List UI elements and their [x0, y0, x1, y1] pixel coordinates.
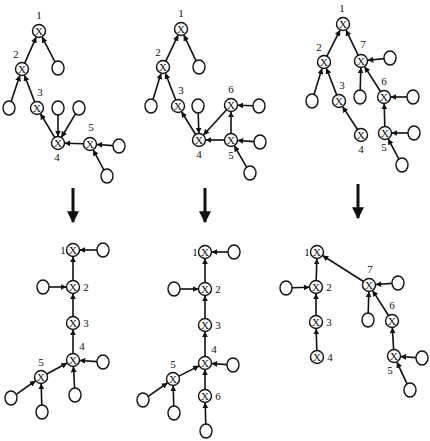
edge-arrow — [205, 403, 206, 425]
node-number-label: 3 — [178, 84, 184, 96]
node-number-label: 3 — [37, 86, 43, 98]
nodes-layer: X1X2X3X4X5X1X2X3X4X5X6X1X2X3X4X7X6X5X1X2… — [3, 2, 428, 438]
x-node-glyph: X — [313, 246, 321, 258]
tree-transformation-diagram: X1X2X3X4X5X1X2X3X4X5X6X1X2X3X4X7X6X5X1X2… — [0, 0, 430, 441]
edge-arrow — [179, 366, 199, 376]
x-node-1: X1 — [33, 9, 46, 38]
x-node-4: X4 — [52, 137, 65, 164]
edge-arrow — [47, 363, 67, 374]
x-node-2: X2 — [199, 283, 221, 296]
edge-arrow — [212, 364, 227, 365]
edge-arrow — [93, 150, 104, 171]
x-node-glyph: X — [357, 55, 365, 67]
edge-arrow — [316, 259, 317, 281]
node-number-label: 1 — [339, 2, 345, 14]
edge-arrow — [166, 74, 176, 100]
x-node-1: X1 — [192, 246, 211, 259]
x-node-1: X1 — [60, 244, 79, 257]
x-node-glyph: X — [169, 373, 177, 385]
leaf-node — [362, 313, 374, 327]
x-node-7: X7 — [363, 263, 376, 292]
x-node-5: X5 — [84, 121, 97, 151]
x-node-4: X4 — [311, 351, 334, 364]
node-number-label: 5 — [170, 358, 176, 370]
node-number-label: 2 — [215, 283, 221, 295]
x-node-3: X3 — [67, 317, 90, 330]
x-node-glyph: X — [69, 354, 77, 366]
x-node-glyph: X — [357, 129, 365, 141]
edge-arrow — [238, 141, 254, 142]
edge-arrow — [235, 146, 248, 168]
leaf-node — [168, 282, 180, 296]
node-number-label: 3 — [83, 317, 89, 329]
leaf-node — [69, 388, 81, 402]
edge-arrow — [323, 256, 364, 282]
edge-arrow — [368, 59, 384, 61]
x-node-glyph: X — [86, 138, 94, 150]
edge-arrow — [346, 30, 358, 55]
edge-arrow — [392, 328, 393, 350]
node-number-label: 1 — [60, 244, 66, 256]
x-node-2: X2 — [155, 46, 169, 74]
x-node-3: X3 — [199, 319, 222, 332]
leaf-node — [280, 281, 292, 295]
x-node-glyph: X — [69, 244, 77, 256]
leaf-node — [52, 61, 64, 75]
x-node-glyph: X — [380, 91, 388, 103]
tree-panel-bottom-2: X1X2X3X4X5X6 — [137, 245, 240, 438]
edge-arrow — [41, 114, 55, 137]
node-number-label: 4 — [54, 151, 60, 163]
x-node-glyph: X — [313, 351, 321, 363]
edge-arrow — [384, 104, 385, 127]
node-number-label: 2 — [13, 48, 19, 60]
leaf-node — [113, 139, 125, 153]
node-number-label: 3 — [215, 319, 221, 331]
edge-arrow — [11, 76, 20, 103]
node-number-label: 5 — [38, 356, 44, 368]
x-node-3: X3 — [333, 79, 346, 108]
node-number-label: 5 — [387, 364, 393, 376]
node-number-label: 4 — [79, 340, 85, 352]
x-node-5: X5 — [167, 358, 180, 386]
node-number-label: 2 — [326, 281, 332, 293]
leaf-node — [168, 406, 180, 420]
x-node-3: X3 — [310, 316, 333, 329]
leaf-node — [404, 383, 416, 397]
leaf-node — [306, 94, 318, 108]
leaf-node — [416, 351, 428, 365]
edge-arrow — [376, 283, 392, 284]
x-node-glyph: X — [320, 56, 328, 68]
node-number-label: 4 — [358, 143, 364, 155]
edge-arrow — [368, 292, 369, 314]
x-node-glyph: X — [227, 99, 235, 111]
node-number-label: 2 — [155, 46, 161, 58]
x-node-1: X1 — [337, 2, 350, 31]
leaf-node — [192, 99, 204, 113]
x-node-glyph: X — [54, 137, 62, 149]
leaf-node — [97, 355, 109, 369]
edge-arrow — [316, 329, 317, 351]
node-number-label: 5 — [381, 141, 387, 153]
edge-arrow — [153, 74, 161, 101]
edge-arrow — [198, 112, 199, 133]
x-node-glyph: X — [381, 127, 389, 139]
edge-arrow — [62, 113, 76, 137]
x-node-glyph: X — [69, 281, 77, 293]
node-number-label: 1 — [178, 7, 184, 19]
edge-arrow — [292, 287, 309, 288]
x-node-5: X5 — [379, 127, 392, 154]
leaf-node — [228, 245, 240, 259]
node-number-label: 1 — [304, 246, 310, 258]
leaf-node — [97, 243, 109, 257]
x-node-glyph: X — [339, 18, 347, 30]
x-node-glyph: X — [201, 319, 209, 331]
node-number-label: 6 — [389, 299, 395, 311]
edge-arrow — [327, 69, 337, 95]
leaf-node — [408, 126, 420, 140]
edge-arrow — [73, 367, 74, 389]
leaf-node — [392, 276, 404, 290]
x-node-1: X1 — [175, 7, 188, 36]
node-number-label: 6 — [381, 75, 387, 87]
x-node-glyph: X — [37, 371, 45, 383]
x-node-2: X2 — [13, 48, 28, 76]
